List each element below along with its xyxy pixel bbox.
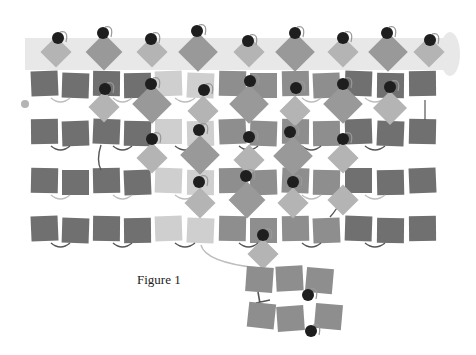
dot-node <box>191 25 203 37</box>
dot-node <box>384 81 396 93</box>
dot-node <box>243 131 255 143</box>
dot-node <box>145 33 157 45</box>
square-block <box>31 119 58 144</box>
square-block <box>92 118 120 144</box>
dot-node <box>305 325 317 337</box>
connector-link <box>113 195 132 199</box>
dot-node <box>284 126 296 138</box>
dot-node <box>287 176 299 188</box>
dot-node <box>424 34 436 46</box>
connector-link <box>302 98 321 102</box>
dot-node <box>381 27 393 39</box>
square-block <box>409 71 436 96</box>
square-block <box>245 266 274 293</box>
connector-link <box>365 146 385 150</box>
diagram-canvas <box>0 0 476 355</box>
square-block <box>377 170 405 196</box>
dot-node <box>240 170 252 182</box>
square-block <box>31 70 59 96</box>
square-block <box>345 216 373 242</box>
square-block <box>62 73 90 99</box>
square-block <box>276 305 305 332</box>
square-block <box>93 168 121 194</box>
square-block <box>62 218 90 244</box>
square-block <box>62 121 90 147</box>
dot-node <box>257 229 269 241</box>
dot-node <box>99 83 111 95</box>
square-block <box>31 215 59 241</box>
square-block <box>377 218 404 243</box>
square-block <box>124 218 151 243</box>
square-block <box>155 119 182 144</box>
diamond-node <box>247 238 278 269</box>
connector-link <box>113 243 132 247</box>
connector-link <box>365 195 385 199</box>
dot-node <box>146 133 158 145</box>
band-end-node <box>21 100 29 108</box>
dot-node <box>198 84 210 96</box>
square-block <box>282 216 310 242</box>
square-block <box>155 168 183 194</box>
square-block <box>313 121 340 146</box>
dot-node <box>290 82 302 94</box>
connector-link <box>99 145 102 170</box>
square-block <box>313 217 341 243</box>
connector-link <box>113 98 132 102</box>
connector-link <box>51 243 70 247</box>
connector-link <box>365 243 385 247</box>
dot-node <box>97 27 109 39</box>
connector-link <box>175 243 195 247</box>
square-block <box>124 169 152 195</box>
connector-link <box>175 98 195 102</box>
square-block <box>186 217 214 243</box>
square-block <box>409 167 437 193</box>
dot-node <box>193 176 205 188</box>
diamond-node <box>88 91 119 122</box>
square-block <box>93 216 120 241</box>
dot-node <box>337 133 349 145</box>
dot-node <box>289 27 301 39</box>
square-block <box>275 265 303 291</box>
square-block <box>409 119 437 145</box>
square-block <box>62 170 89 195</box>
square-block <box>31 168 59 194</box>
dot-node <box>337 78 349 90</box>
square-block <box>219 216 247 242</box>
square-block <box>155 216 183 242</box>
dot-node <box>193 124 205 136</box>
dot-node <box>145 78 157 90</box>
dot-node <box>302 289 314 301</box>
square-block <box>345 168 372 193</box>
figure-caption: Figure 1 <box>137 272 181 288</box>
figure-diagram <box>0 0 476 355</box>
square-block <box>247 302 276 330</box>
dot-node <box>52 32 64 44</box>
dot-node <box>337 32 349 44</box>
connector-link <box>201 245 258 268</box>
square-block <box>409 216 436 241</box>
connector-link <box>113 146 132 150</box>
connector-link <box>51 195 70 199</box>
connector-link <box>302 243 321 247</box>
connector-link <box>51 98 70 102</box>
connector-link <box>302 195 321 199</box>
connector-link <box>51 146 70 150</box>
band-end-cap <box>440 32 460 76</box>
dot-node <box>244 75 256 87</box>
square-block <box>219 118 247 144</box>
dot-node <box>242 35 254 47</box>
